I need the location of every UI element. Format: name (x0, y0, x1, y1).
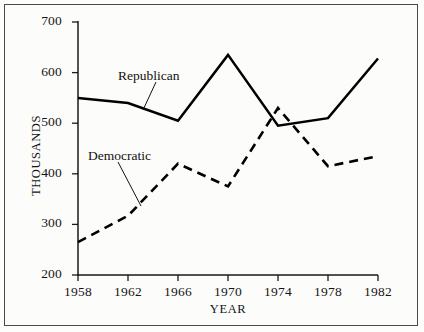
y-axis-tick-label: 300 (0, 215, 62, 231)
series-annotation-republican: Republican (118, 68, 179, 84)
series-annotation-democratic: Democratic (88, 148, 151, 164)
x-axis-tick-label: 1974 (250, 284, 306, 300)
x-axis-tick-label: 1966 (150, 284, 206, 300)
y-axis-tick-label: 600 (0, 64, 62, 80)
line-series-republican (78, 55, 378, 126)
y-axis-ticks (72, 22, 78, 275)
x-axis-tick-label: 1958 (50, 284, 106, 300)
y-axis-tick-label: 200 (0, 266, 62, 282)
x-axis-tick-label: 1962 (100, 284, 156, 300)
leader-line-democratic (118, 162, 141, 206)
y-axis-tick-label: 700 (0, 13, 62, 29)
y-axis-title: THOUSANDS (29, 96, 44, 216)
x-axis-tick-label: 1978 (300, 284, 356, 300)
x-axis-tick-label: 1982 (350, 284, 406, 300)
line-series-democratic (78, 108, 378, 242)
x-axis-title: YEAR (78, 302, 378, 317)
x-axis-ticks (78, 275, 378, 281)
chart-figure: 200300400500600700 195819621966197019741… (0, 0, 424, 332)
plot-area (0, 0, 424, 332)
x-axis-tick-label: 1970 (200, 284, 256, 300)
leader-line-republican (143, 82, 156, 110)
